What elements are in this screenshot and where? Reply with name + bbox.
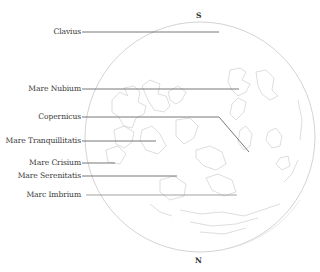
label-marc-imbrium: Marc Imbrium [26, 190, 81, 199]
label-mare-crisium: Mare Crisium [29, 158, 81, 167]
label-clavius: Clavius [53, 27, 81, 36]
leader-line-copernicus [82, 117, 249, 152]
label-copernicus: Copernicus [38, 112, 81, 121]
moon-diagram: S N Clavius Mare Nubium Copernicus Mare … [0, 0, 320, 272]
label-mare-serenitatis: Mare Serenitatis [18, 171, 81, 180]
label-mare-tranquillitatis: Mare Tranquillitatis [6, 136, 81, 145]
label-mare-nubium: Mare Nubium [28, 84, 81, 93]
